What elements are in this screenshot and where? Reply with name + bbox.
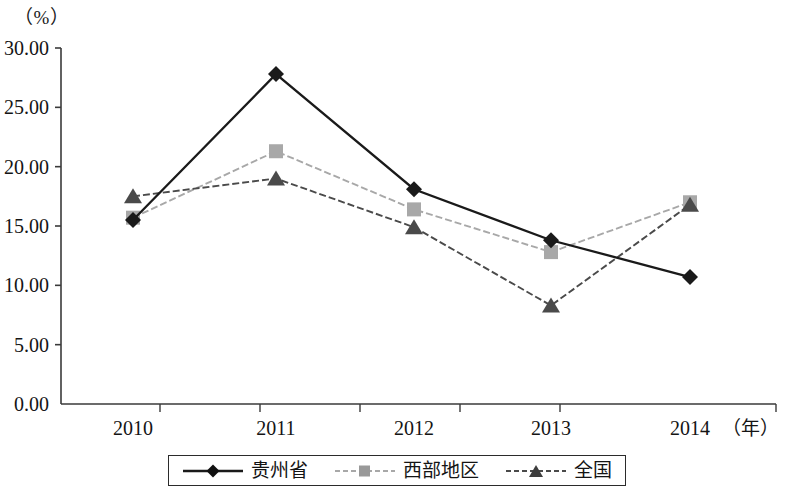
data-point-diamond [682,269,698,285]
series-1 [126,144,697,259]
x-tick-label-2010: 2010 [113,417,153,439]
y-tick-label-20: 20.00 [4,156,49,178]
y-tick-label-10: 10.00 [4,274,49,296]
x-tick-label-2012: 2012 [394,417,434,439]
data-point-square [407,202,421,216]
legend-label-2: 全国 [574,461,612,480]
legend-item-1: 西部地区 [334,461,479,480]
chart-legend: 贵州省 西部地区 全国 [168,455,626,486]
legend-swatch-triangle-icon [505,463,567,479]
line-chart: （%） 0.005.0010.0015.0020.0025.0030.00201… [0,0,786,488]
legend-label-1: 西部地区 [403,461,479,480]
series-line-0 [133,74,690,277]
y-tick-label-5: 5.00 [14,334,49,356]
x-axis-unit-label: （年） [722,418,779,439]
legend-swatch-diamond-icon [182,463,244,479]
x-tick-label-2011: 2011 [256,417,295,439]
legend-item-2: 全国 [505,461,612,480]
y-tick-label-15: 15.00 [4,215,49,237]
x-tick-label-2014: 2014 [670,417,710,439]
data-point-triangle [267,171,285,186]
legend-item-0: 贵州省 [182,461,308,480]
y-tick-label-30: 30.00 [4,37,49,59]
series-line-1 [133,151,690,252]
data-point-square [269,144,283,158]
y-tick-label-0: 0.00 [14,393,49,415]
legend-swatch-square-icon [334,463,396,479]
data-point-triangle [405,219,423,234]
legend-label-0: 贵州省 [251,461,308,480]
x-tick-label-2013: 2013 [531,417,571,439]
series-line-2 [133,179,690,306]
series-0 [125,66,698,285]
plot-area: 0.005.0010.0015.0020.0025.0030.002010201… [0,0,786,455]
data-point-triangle [542,298,560,313]
y-tick-label-25: 25.00 [4,96,49,118]
